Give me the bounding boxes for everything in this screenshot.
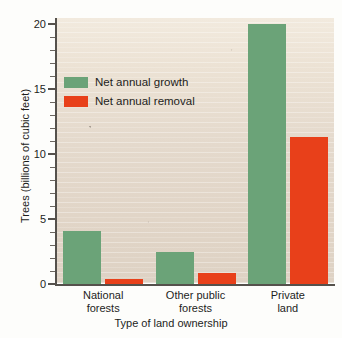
y-tick-minor — [50, 141, 55, 142]
y-tick-minor — [50, 180, 55, 181]
bar — [248, 24, 286, 284]
y-tick-minor — [50, 115, 55, 116]
y-tick-minor — [50, 271, 55, 272]
y-tick-minor — [50, 76, 55, 77]
legend-label-growth: Net annual growth — [95, 76, 188, 88]
y-tick-major — [48, 88, 55, 90]
y-tick-major — [48, 153, 55, 155]
legend-label-removal: Net annual removal — [95, 95, 195, 107]
y-tick-minor — [50, 50, 55, 51]
y-tick-minor — [50, 63, 55, 64]
y-tick-minor — [50, 206, 55, 207]
x-axis-line — [55, 284, 335, 286]
y-tick-label: 20 — [2, 18, 46, 30]
y-tick-minor — [50, 128, 55, 129]
y-axis-line — [55, 18, 57, 285]
x-axis-title: Type of land ownership — [0, 317, 342, 329]
legend-swatch-removal — [64, 96, 88, 107]
y-tick-minor — [50, 37, 55, 38]
bar — [290, 137, 328, 284]
legend-swatch-growth — [64, 77, 88, 88]
y-tick-minor — [50, 102, 55, 103]
y-tick-minor — [50, 232, 55, 233]
y-tick-major — [48, 23, 55, 25]
x-category-label: Privateland — [233, 289, 342, 315]
y-axis-title: Trees (billions of cubic feet) — [19, 36, 31, 276]
bar — [105, 279, 143, 284]
chart-legend: Net annual growth Net annual removal — [64, 74, 195, 112]
y-tick-major — [48, 218, 55, 220]
x-category-label-line: Private — [233, 289, 342, 302]
bar-chart-figure: 05101520 Trees (billions of cubic feet) … — [0, 0, 342, 338]
x-category-label-line: land — [233, 302, 342, 315]
bar — [63, 231, 101, 284]
legend-item-growth: Net annual growth — [64, 74, 195, 90]
y-tick-minor — [50, 193, 55, 194]
y-tick-minor — [50, 258, 55, 259]
y-tick-minor — [50, 245, 55, 246]
y-tick-major — [48, 283, 55, 285]
bar — [156, 252, 194, 284]
legend-item-removal: Net annual removal — [64, 93, 195, 109]
y-tick-label: 0 — [2, 278, 46, 290]
y-tick-minor — [50, 167, 55, 168]
bar — [198, 273, 236, 284]
